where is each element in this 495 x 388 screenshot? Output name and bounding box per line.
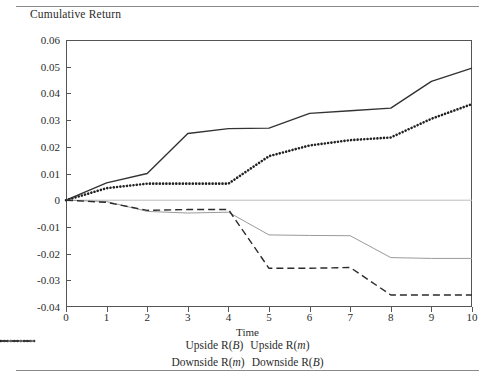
x-tick-label: 4 (226, 311, 232, 323)
y-tick-label: 0.04 (41, 87, 60, 99)
series-line-downside-r-b (66, 200, 472, 295)
y-tick-label: 0 (55, 194, 61, 206)
x-tick-label: 0 (63, 311, 69, 323)
x-tick-label: 2 (144, 311, 150, 323)
x-tick-label: 10 (467, 311, 478, 323)
x-tick-label: 5 (266, 311, 272, 323)
legend-item: Downside R(m) (171, 356, 244, 368)
x-tick-label: 7 (347, 311, 353, 323)
legend-row-1: Upside R(B)Upside R(m) (0, 336, 495, 353)
series-line-upside-r-m (66, 104, 472, 200)
chart-title: Cumulative Return (30, 8, 121, 20)
legend-label: Downside R(B) (252, 356, 324, 368)
series-line-downside-r-m (66, 200, 472, 258)
chart-legend: Upside R(B)Upside R(m) Downside R(m)Down… (0, 336, 495, 370)
legend-item: Upside R(B) (186, 339, 244, 351)
top-divider-rule (16, 6, 479, 7)
plot-area (66, 40, 472, 307)
legend-swatch-dashed (0, 336, 36, 346)
legend-row-2: Downside R(m)Downside R(B) (0, 353, 495, 370)
y-tick-label: 0.05 (41, 61, 60, 73)
y-axis-tick-labels: 0.060.050.040.030.020.010-0.01-0.02-0.03… (0, 40, 60, 307)
x-tick-label: 9 (429, 311, 435, 323)
y-tick-label: -0.03 (37, 274, 60, 286)
y-tick-label: 0.01 (41, 168, 60, 180)
x-axis-tick-labels: 012345678910 (0, 311, 495, 327)
x-tick-label: 8 (388, 311, 394, 323)
bottom-divider-rule (16, 370, 479, 371)
legend-label: Upside R(B) (186, 339, 244, 351)
x-tick-label: 6 (307, 311, 313, 323)
y-tick-label: -0.01 (37, 221, 60, 233)
y-tick-label: 0.02 (41, 141, 60, 153)
legend-item: Upside R(m) (250, 339, 309, 351)
legend-label: Downside R(m) (171, 356, 244, 368)
y-tick-label: -0.02 (37, 248, 60, 260)
x-tick-label: 3 (185, 311, 191, 323)
series-canvas (66, 40, 472, 307)
legend-item: Downside R(B) (252, 356, 324, 368)
y-tick-label: 0.06 (41, 34, 60, 46)
y-tick-label: 0.03 (41, 114, 60, 126)
legend-label: Upside R(m) (250, 339, 309, 351)
x-tick-label: 1 (104, 311, 110, 323)
series-line-upside-r-b (66, 68, 472, 200)
